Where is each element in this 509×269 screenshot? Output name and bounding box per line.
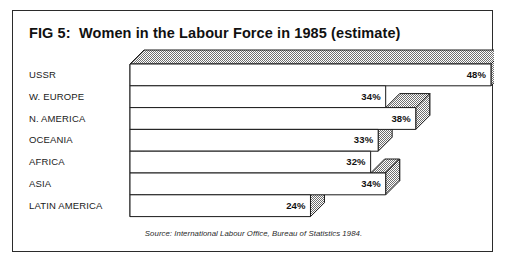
value-label-asia: 34%: [358, 178, 381, 189]
category-label-w-europe: W. EUROPE: [29, 91, 84, 102]
bar-front-face: [130, 108, 416, 130]
figure-frame: FIG 5: Women in the Labour Force in 1985…: [12, 10, 493, 252]
category-label-oceania: OCEANIA: [29, 134, 73, 145]
bars-group: [130, 50, 494, 217]
bar-front-face: [130, 151, 371, 173]
category-label-asia: ASIA: [29, 178, 51, 189]
category-label-africa: AFRICA: [29, 156, 65, 167]
value-label-n-america: 38%: [388, 113, 411, 124]
category-label-ussr: USSR: [29, 69, 56, 80]
bar-front-face: [130, 86, 386, 108]
value-label-latin-america: 24%: [283, 200, 306, 211]
bar-top-3d-face: [130, 50, 494, 64]
bar-front-face: [130, 129, 378, 151]
bar-chart: [13, 11, 494, 253]
value-label-ussr: 48%: [463, 69, 486, 80]
value-label-w-europe: 34%: [358, 91, 381, 102]
value-label-africa: 32%: [343, 156, 366, 167]
bar-front-face: [130, 64, 491, 86]
category-label-n-america: N. AMERICA: [29, 113, 85, 124]
category-label-latin-america: LATIN AMERICA: [29, 200, 103, 211]
bar-front-face: [130, 173, 386, 195]
source-note: Source: International Labour Office, Bur…: [13, 229, 494, 238]
chart-svg: [13, 11, 494, 253]
value-label-oceania: 33%: [350, 134, 373, 145]
